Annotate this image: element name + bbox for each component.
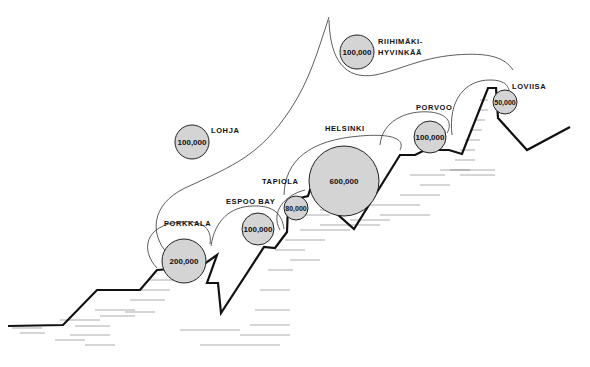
tapiola-population: 80,000	[285, 205, 307, 213]
riihimaki-population: 100,000	[343, 48, 372, 57]
porkkala-label: PORKKALA	[164, 219, 211, 228]
riihimaki-label-line1: RIIHIMÄKI-	[378, 37, 423, 46]
city-riihimaki: 100,000 RIIHIMÄKI- HYVINKÄÄ	[340, 35, 423, 69]
espoo-bay-label: ESPOO BAY	[226, 197, 275, 206]
loviisa-population: 50,000	[494, 99, 516, 107]
lohja-label: LOHJA	[211, 126, 239, 135]
porvoo-population: 100,000	[416, 133, 445, 142]
tapiola-label: TAPIOLA	[262, 177, 299, 186]
porvoo-label: PORVOO	[416, 103, 452, 112]
city-porkkala: 200,000 PORKKALA	[162, 219, 211, 283]
lohja-population: 100,000	[178, 138, 207, 147]
porkkala-population: 200,000	[170, 257, 199, 266]
city-lohja: 100,000 LOHJA	[175, 125, 239, 159]
city-espoo-bay: 100,000 ESPOO BAY	[226, 197, 275, 245]
riihimaki-label-line2: HYVINKÄÄ	[378, 48, 422, 57]
helsinki-population: 600,000	[330, 177, 359, 186]
espoo-bay-population: 100,000	[244, 225, 273, 234]
helsinki-label: HELSINKI	[325, 124, 365, 133]
loviisa-label: LOVIISA	[512, 82, 546, 91]
regional-diagram: 100,000 RIIHIMÄKI- HYVINKÄÄ 100,000 LOHJ…	[0, 0, 590, 367]
city-loviisa: 50,000 LOVIISA	[493, 82, 546, 114]
city-porvoo: 100,000 PORVOO	[414, 103, 452, 153]
